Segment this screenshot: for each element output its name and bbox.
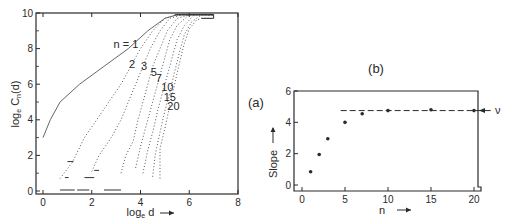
y-tick-label: 2 [285, 148, 291, 159]
x-tick-label: 0 [299, 194, 305, 205]
x-axis-label: loge d [127, 206, 155, 219]
x-tick-label: 2 [89, 197, 95, 208]
chart-b: 051015200246νnSlope(b) [267, 61, 501, 216]
data-point [326, 137, 330, 141]
panel-label-a: (a) [248, 95, 264, 110]
y-axis-label: loge Cn(d) [9, 81, 22, 128]
data-point [472, 109, 476, 113]
y-tick-label: 8 [27, 43, 33, 54]
series-n=1 [43, 15, 214, 138]
x-tick-label: 6 [186, 197, 192, 208]
data-point [309, 170, 313, 174]
data-point [429, 108, 433, 112]
y-tick-label: 4 [27, 114, 33, 125]
x-axis-label: n [379, 204, 385, 216]
curve-label: n = 1 [113, 38, 138, 50]
x-tick-label: 0 [40, 197, 46, 208]
plot-frame-b [294, 91, 481, 191]
x-tick-label: 8 [235, 197, 241, 208]
y-tick-label: 4 [285, 117, 291, 128]
data-point [343, 121, 347, 125]
panel-label-b: (b) [368, 61, 384, 76]
x-tick-label: 5 [342, 194, 348, 205]
arrow-left-icon [479, 108, 485, 113]
y-tick-label: 0 [285, 180, 291, 191]
data-point [386, 109, 390, 113]
x-tick-label: 15 [425, 194, 437, 205]
y-tick-label: 10 [22, 8, 34, 19]
curve-label: 3 [141, 60, 147, 72]
data-point [317, 153, 321, 157]
figure-canvas: 024680246810n = 12357101520loge dloge Cn… [0, 0, 509, 224]
y-axis-label: Slope [267, 150, 279, 178]
series-n=10 [143, 15, 214, 173]
y-tick-label: 0 [27, 186, 33, 197]
nu-label: ν [495, 104, 501, 116]
series-n=3 [92, 15, 214, 172]
data-point [360, 112, 364, 116]
y-tick-label: 6 [285, 86, 291, 97]
y-tick-label: 6 [27, 79, 33, 90]
chart-a: 024680246810n = 12357101520loge dloge Cn… [9, 8, 264, 220]
x-tick-label: 20 [468, 194, 480, 205]
curve-label: 2 [129, 58, 135, 70]
y-tick-label: 2 [27, 150, 33, 161]
curve-label: 20 [167, 100, 179, 112]
series-n=15 [153, 15, 214, 177]
